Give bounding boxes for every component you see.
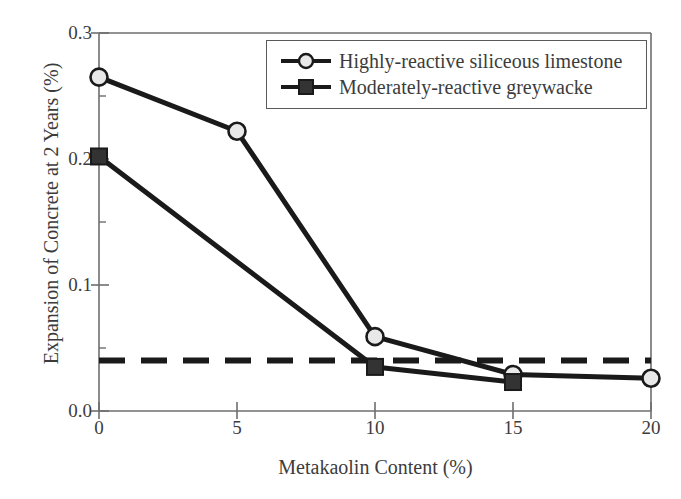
legend-marker-circle-open-icon [279, 50, 333, 72]
y-axis-minor-ticks [99, 96, 106, 348]
legend-marker-square-filled-icon [279, 76, 333, 98]
data-point-circle [229, 123, 246, 140]
legend-entry-0: Highly-reactive siliceous limestone [279, 48, 636, 74]
data-point-circle [643, 370, 660, 387]
legend-label-1: Moderately-reactive greywacke [333, 76, 593, 99]
data-point-square [505, 374, 521, 390]
data-point-circle [91, 69, 108, 86]
data-series-group [91, 69, 660, 390]
series-0 [91, 69, 660, 387]
legend-entry-1: Moderately-reactive greywacke [279, 74, 636, 100]
data-point-square [367, 359, 383, 375]
chart-figure: Expansion of Concrete at 2 Years (%) 0.0… [0, 0, 681, 499]
chart-legend: Highly-reactive siliceous limestone Mode… [266, 40, 647, 109]
data-point-square [91, 148, 107, 164]
series-1 [91, 148, 521, 390]
legend-label-0: Highly-reactive siliceous limestone [333, 50, 622, 73]
data-point-circle [367, 328, 384, 345]
